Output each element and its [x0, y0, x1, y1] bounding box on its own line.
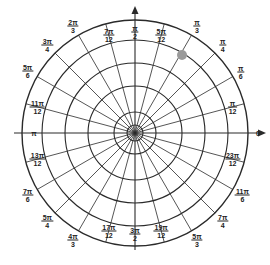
angle-label-numerator: 3π: [42, 38, 53, 45]
angle-label-denominator: 4: [42, 220, 53, 228]
angle-label-numerator: 19π: [154, 223, 169, 230]
angle-label-denominator: 12: [101, 230, 116, 238]
angle-label-5pi-12: 5π12: [156, 28, 167, 43]
angle-label-numerator: 5π: [22, 64, 33, 71]
angle-label-numerator: π: [219, 38, 226, 45]
angle-label-denominator: 12: [154, 230, 169, 238]
angle-label-pi-2: π2: [131, 25, 138, 40]
angle-label-pi-6: π6: [237, 65, 244, 80]
angle-label-11pi-6: 11π6: [235, 188, 250, 203]
grid-spoke: [135, 133, 192, 231]
angle-label-denominator: 2: [129, 234, 140, 242]
angle-label-denominator: 4: [217, 220, 228, 228]
angle-label-numerator: π: [228, 99, 238, 106]
grid-spoke: [135, 35, 192, 133]
angle-label-pi-12: π12: [228, 99, 238, 114]
angle-label-numerator: π: [131, 25, 138, 32]
angle-label-7pi-12: 7π12: [103, 28, 114, 43]
grid-spoke: [79, 35, 136, 133]
angle-label-19pi-12: 19π12: [154, 223, 169, 238]
angle-label-3pi-4: 3π4: [42, 38, 53, 53]
point-marker: [177, 50, 187, 60]
angle-label-23pi-12: 23π12: [225, 152, 240, 167]
grid-spoke: [55, 133, 135, 213]
grid-spoke: [55, 53, 135, 133]
angle-label-denominator: 3: [191, 240, 202, 248]
angle-label-denominator: 4: [219, 45, 226, 53]
grid-spoke: [79, 133, 136, 231]
angle-label-denominator: 6: [22, 195, 33, 203]
angle-label-2pi-3: 2π3: [67, 18, 78, 33]
angle-label-numerator: 5π: [156, 28, 167, 35]
angle-label-numerator: 13π: [30, 152, 45, 159]
angle-label-denominator: 3: [193, 25, 200, 33]
angle-label-denominator: 12: [156, 35, 167, 43]
angle-label-17pi-12: 17π12: [101, 223, 116, 238]
angle-label-numerator: 5π: [42, 213, 53, 220]
angle-label-numerator: 4π: [67, 233, 78, 240]
angle-label-numerator: 0: [255, 130, 261, 137]
y-axis-arrow-icon: [132, 6, 139, 14]
angle-label-denominator: 12: [30, 106, 45, 114]
grid-spoke: [135, 53, 215, 133]
angle-label-denominator: 12: [228, 106, 238, 114]
grid-spoke: [135, 133, 215, 213]
angle-label-numerator: 2π: [67, 18, 78, 25]
angle-label-5pi-6: 5π6: [22, 64, 33, 79]
angle-label-numerator: 7π: [217, 213, 228, 220]
angle-label-0: 0: [255, 130, 261, 137]
grid-spoke: [37, 77, 135, 134]
grid-spoke: [135, 77, 233, 134]
polar-grid-diagram: 0π12π6π4π35π12π27π122π33π45π611π12π13π12…: [0, 0, 270, 265]
angle-label-denominator: 6: [237, 72, 244, 80]
angle-label-denominator: 12: [225, 159, 240, 167]
angle-label-numerator: 17π: [101, 223, 116, 230]
angle-label-numerator: π: [237, 65, 244, 72]
angle-label-denominator: 6: [22, 71, 33, 79]
angle-label-3pi-2: 3π2: [129, 227, 140, 242]
angle-label-pi-4: π4: [219, 38, 226, 53]
angle-label-numerator: 11π: [235, 188, 250, 195]
angle-label-numerator: π: [193, 18, 200, 25]
angle-label-numerator: 11π: [30, 99, 45, 106]
angle-label-numerator: 5π: [191, 233, 202, 240]
angle-label-denominator: 12: [103, 35, 114, 43]
angle-label-numerator: 23π: [225, 152, 240, 159]
angle-label-numerator: π: [30, 130, 37, 137]
angle-label-7pi-6: 7π6: [22, 188, 33, 203]
angle-label-numerator: 7π: [103, 28, 114, 35]
angle-label-11pi-12: 11π12: [30, 99, 45, 114]
angle-label-denominator: 4: [42, 45, 53, 53]
angle-label-denominator: 6: [235, 195, 250, 203]
angle-label-5pi-4: 5π4: [42, 213, 53, 228]
angle-label-pi-3: π3: [193, 18, 200, 33]
angle-label-denominator: 3: [67, 25, 78, 33]
marked-point: [177, 50, 187, 60]
angle-label-pi: π: [30, 130, 37, 137]
polar-grid: [0, 0, 270, 265]
angle-label-7pi-4: 7π4: [217, 213, 228, 228]
angle-label-4pi-3: 4π3: [67, 233, 78, 248]
angle-label-numerator: 7π: [22, 188, 33, 195]
angle-label-5pi-3: 5π3: [191, 233, 202, 248]
angle-label-denominator: 3: [67, 240, 78, 248]
grid-spoke: [37, 133, 135, 190]
angle-label-denominator: 2: [131, 32, 138, 40]
angle-label-numerator: 3π: [129, 227, 140, 234]
angle-label-denominator: 12: [30, 159, 45, 167]
grid-spoke: [135, 133, 233, 190]
angle-label-13pi-12: 13π12: [30, 152, 45, 167]
